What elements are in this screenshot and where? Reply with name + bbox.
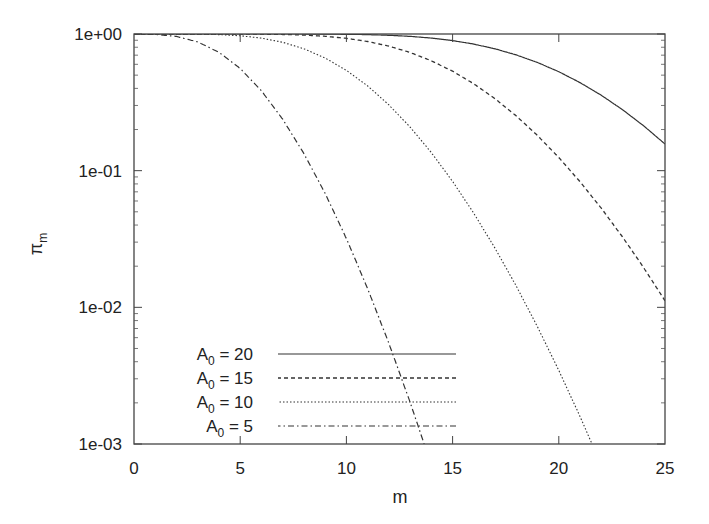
x-tick-label: 5 [235, 459, 244, 478]
y-axis-label: πm [26, 233, 50, 255]
legend: A0 = 20A0 = 15A0 = 10A0 = 5 [197, 345, 456, 440]
series-line-15 [134, 34, 665, 301]
y-tick-label: 1e-01 [79, 162, 122, 181]
x-axis-label: m [393, 487, 408, 507]
y-tick-label: 1e+00 [74, 25, 122, 44]
y-tick-label: 1e-02 [79, 298, 122, 317]
x-tick-label: 10 [337, 459, 356, 478]
y-tick-label: 1e-03 [79, 435, 122, 454]
y-axis-ticks: 1e+001e-011e-021e-03 [74, 25, 665, 454]
series-line-5 [134, 34, 437, 482]
x-tick-label: 20 [549, 459, 568, 478]
series-line-20 [134, 34, 665, 144]
x-tick-label: 25 [656, 459, 675, 478]
chart: 1e+001e-011e-021e-03 0510152025 m πm A0 … [0, 0, 709, 524]
legend-label: A0 = 10 [197, 393, 253, 416]
x-tick-label: 15 [443, 459, 462, 478]
x-tick-label: 0 [129, 459, 138, 478]
legend-label: A0 = 5 [206, 417, 253, 440]
svg-text:πm: πm [26, 233, 50, 255]
series-line-10 [134, 34, 609, 483]
legend-label: A0 = 15 [197, 369, 253, 392]
legend-label: A0 = 20 [197, 345, 253, 368]
